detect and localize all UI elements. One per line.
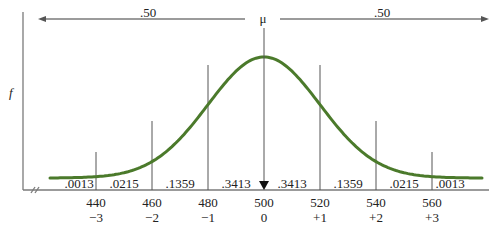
region-area-label: .1359 xyxy=(165,176,194,191)
z-tick-label: −3 xyxy=(89,210,103,225)
region-area-label: .3413 xyxy=(221,176,250,191)
right-half-label: .50 xyxy=(374,5,390,20)
z-tick-label: 0 xyxy=(261,210,268,225)
region-area-label: .0013 xyxy=(64,176,93,191)
z-tick-label: −2 xyxy=(145,210,159,225)
arrow-down-icon xyxy=(259,181,269,190)
arrow-left-icon xyxy=(38,16,46,22)
region-area-label: .0215 xyxy=(389,176,418,191)
normal-distribution-chart: f .50 μ .50 .0013.0215.1359.3413.3413.13… xyxy=(0,0,491,225)
z-tick-label: −1 xyxy=(201,210,215,225)
region-area-label: .1359 xyxy=(333,176,362,191)
mu-label: μ xyxy=(260,11,267,26)
region-area-label: .3413 xyxy=(277,176,306,191)
z-tick-labels: −3−2−10+1+2+3 xyxy=(89,210,439,225)
z-tick-label: +2 xyxy=(369,210,383,225)
z-tick-label: +3 xyxy=(425,210,439,225)
region-area-label: .0215 xyxy=(109,176,138,191)
region-area-label: .0013 xyxy=(435,176,464,191)
x-tick-label: 540 xyxy=(366,195,386,210)
arrow-right-icon xyxy=(481,16,489,22)
x-tick-label: 480 xyxy=(198,195,218,210)
mean-line xyxy=(259,28,269,190)
normal-curve xyxy=(50,57,482,178)
x-tick-label: 560 xyxy=(422,195,442,210)
x-tick-labels: 440460480500520540560 xyxy=(86,195,442,210)
x-tick-label: 520 xyxy=(310,195,330,210)
z-tick-label: +1 xyxy=(313,210,327,225)
x-tick-label: 440 xyxy=(86,195,106,210)
left-half-label: .50 xyxy=(140,5,156,20)
y-axis-label: f xyxy=(9,85,15,100)
x-tick-label: 460 xyxy=(142,195,162,210)
x-tick-label: 500 xyxy=(254,195,274,210)
